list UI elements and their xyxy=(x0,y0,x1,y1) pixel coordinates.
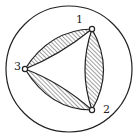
vertex-label-1: 1 xyxy=(76,13,83,26)
vertex-3 xyxy=(22,66,27,71)
vertex-1 xyxy=(89,26,94,31)
lens-1-3 xyxy=(25,29,92,69)
vertex-label-2: 2 xyxy=(103,103,110,116)
diagram-canvas: 1 2 3 xyxy=(0,0,137,138)
lens-1-2 xyxy=(85,29,104,110)
vertex-label-3: 3 xyxy=(14,60,21,73)
vertex-2 xyxy=(89,107,94,112)
lens-2-3 xyxy=(25,69,92,110)
